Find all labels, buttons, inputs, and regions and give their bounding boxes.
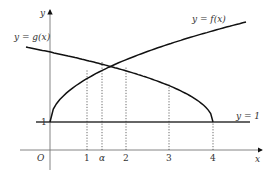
x-tick-4: 4 [210, 153, 216, 163]
x-tick-2: 2 [123, 153, 129, 163]
label-f: y = f(x) [191, 14, 226, 24]
label-g: y = g(x) [13, 32, 51, 42]
curve-g [26, 47, 213, 122]
x-axis-label: x [255, 154, 260, 164]
origin-label: O [37, 153, 45, 163]
x-tick-1: 1 [84, 153, 90, 163]
function-graph: y x O 1 1 α 2 3 4 y = f(x) y = g(x) y = … [0, 0, 277, 177]
guide-lines [87, 62, 213, 150]
curve-f [50, 22, 246, 122]
x-tick-alpha: α [99, 153, 105, 163]
y-axis-label: y [39, 8, 46, 18]
label-line: y = 1 [235, 111, 260, 121]
y-tick-1: 1 [41, 117, 47, 127]
x-tick-3: 3 [166, 153, 172, 163]
